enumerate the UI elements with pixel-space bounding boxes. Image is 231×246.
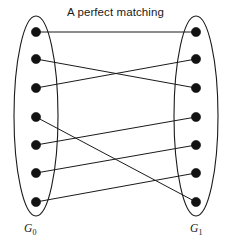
graph-vertex-g0 xyxy=(31,54,40,63)
set-label-g0-name: G xyxy=(24,222,32,234)
graph-vertex-g0 xyxy=(31,112,40,121)
vertex-layer xyxy=(31,27,200,206)
set-label-g1: G1 xyxy=(190,222,202,234)
graph-vertex-g1 xyxy=(191,168,200,177)
graph-vertex-g0 xyxy=(31,27,40,36)
set-label-g1-name: G xyxy=(190,222,198,234)
graph-vertex-g1 xyxy=(191,27,200,36)
graph-vertex-g1 xyxy=(191,140,200,149)
set-label-g1-subscript: 1 xyxy=(199,228,203,237)
matching-edge xyxy=(36,145,196,173)
graph-vertex-g1 xyxy=(191,54,200,63)
graph-vertex-g0 xyxy=(31,197,40,206)
set-label-g0: G0 xyxy=(24,222,36,234)
set-label-g0-subscript: 0 xyxy=(33,228,37,237)
perfect-matching-figure: A perfect matching G0 G1 xyxy=(0,0,231,246)
graph-vertex-g0 xyxy=(31,168,40,177)
matching-edge xyxy=(36,117,196,145)
matching-edge-layer xyxy=(36,32,196,202)
graph-vertex-g1 xyxy=(191,83,200,92)
graph-vertex-g1 xyxy=(191,112,200,121)
graph-vertex-g0 xyxy=(31,83,40,92)
bipartite-graph-canvas xyxy=(0,0,231,246)
graph-vertex-g1 xyxy=(191,197,200,206)
matching-edge xyxy=(36,173,196,202)
graph-vertex-g0 xyxy=(31,140,40,149)
